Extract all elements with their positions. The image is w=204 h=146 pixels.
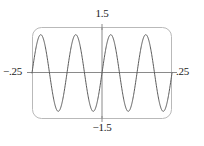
y-axis-max-label: 1.5 — [0, 7, 204, 19]
x-axis-min-label: −.25 — [3, 65, 22, 77]
y-axis-min-label: −1.5 — [0, 121, 204, 133]
sine-wave-plot-figure: 1.5 −1.5 −.25 .25 — [0, 0, 204, 146]
x-axis-max-label: .25 — [176, 65, 189, 77]
